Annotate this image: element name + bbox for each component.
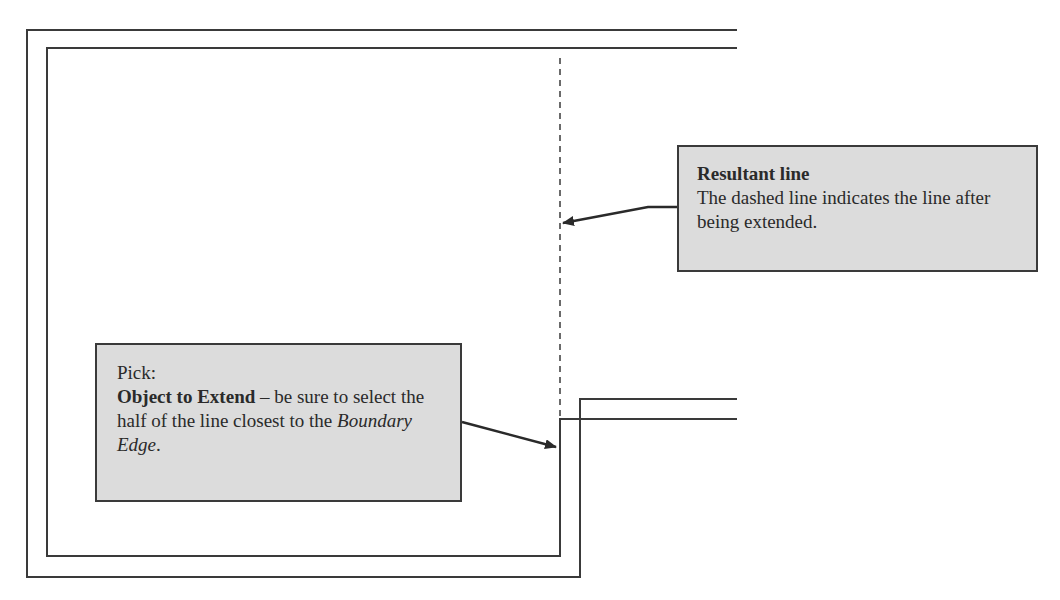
pick-arrow-icon: [462, 422, 556, 447]
resultant-line-callout: Resultant line The dashed line indicates…: [677, 145, 1038, 272]
object-to-extend-title: Object to Extend: [117, 386, 255, 407]
callout-body: The dashed line indicates the line after…: [697, 186, 1018, 234]
wall-drawing: [0, 0, 1060, 600]
pick-desc-end: .: [156, 434, 161, 455]
callout-title: Resultant line: [697, 163, 809, 184]
resultant-arrow-icon: [563, 207, 677, 223]
pick-object-callout: Pick: Object to Extend – be sure to sele…: [95, 343, 462, 502]
separator: –: [255, 386, 274, 407]
pick-description: Object to Extend – be sure to select the…: [117, 385, 440, 457]
pick-label: Pick:: [117, 361, 440, 385]
